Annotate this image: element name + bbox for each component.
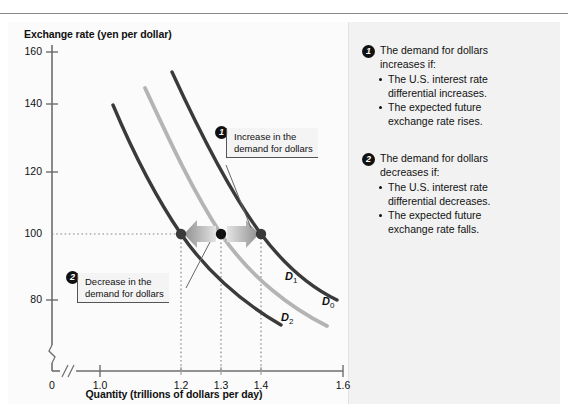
y-axis-title: Exchange rate (yen per dollar) [24,28,172,40]
legend-2-badge: 2 [362,153,375,166]
callout-2-box: Decrease in the demand for dollars [77,273,169,303]
curve-label-d1-text: D [285,270,293,282]
legend-1-heading-line1: The demand for dollars [380,44,547,58]
legend-2-heading: 2 The demand for dollars decreases if: [362,152,547,179]
legend-1-bullet-1-line2: differential increases. [388,87,547,101]
bullet-dot-icon [379,106,382,109]
legend-1-bullet-2-line1: The expected future [388,101,547,115]
y-axis [46,45,58,371]
x-origin-label: 0 [39,379,65,391]
callout-2-line1: Decrease in the [85,276,164,288]
curve-label-d2-text: D [281,311,289,323]
legend-1-bullet-1: The U.S. interest rate differential incr… [388,73,547,100]
legend-2-bullet-2-line1: The expected future [388,209,547,223]
figure-root: Exchange rate (yen per dollar) Quantity … [0,0,568,411]
callout-1-leader [226,165,251,228]
legend-1-badge: 1 [362,45,375,58]
x-tick-1-0: 1.0 [87,379,113,391]
demand-curve-d1 [172,72,337,300]
legend-block-1: 1 The demand for dollars increases if: T… [362,44,547,129]
curve-label-d0-text: D [322,295,330,307]
d0-equilibrium-dot [216,229,226,239]
d2-equilibrium-dot [176,229,186,239]
y-tick-120: 120 [16,165,42,177]
callout-2-line2: demand for dollars [85,288,164,300]
legend-2-bullet-2: The expected future exchange rate falls. [388,209,547,236]
curve-label-d2: D2 [281,311,293,326]
curve-label-d0-sub: 0 [330,301,334,310]
callout-1-line1: Increase in the [234,131,313,143]
legend-1-bullet-2-line2: exchange rate rises. [388,115,547,129]
legend-1-bullet-2: The expected future exchange rate rises. [388,101,547,128]
x-marker-1-3: 1.3 [208,379,234,391]
bullet-dot-icon [379,186,382,189]
legend-2-heading-line2: decreases if: [380,166,547,180]
d1-equilibrium-dot [256,229,266,239]
legend-2-bullets: The U.S. interest rate differential decr… [362,181,547,236]
legend-2-bullet-2-line2: exchange rate falls. [388,223,547,237]
legend-1-heading: 1 The demand for dollars increases if: [362,44,547,71]
y-tick-140: 140 [16,97,42,109]
x-tick-1-6: 1.6 [330,379,356,391]
callout-1-line2: demand for dollars [234,143,313,155]
curve-label-d1: D1 [285,270,297,285]
legend-2-heading-line1: The demand for dollars [380,152,547,166]
x-marker-1-4: 1.4 [248,379,274,391]
legend-2-bullet-1-line1: The U.S. interest rate [388,181,547,195]
legend-1-bullets: The U.S. interest rate differential incr… [362,73,547,128]
demand-curve-d0 [145,88,327,326]
bullet-dot-icon [379,214,382,217]
legend-2-bullet-1-line2: differential decreases. [388,195,547,209]
legend-2-bullet-1: The U.S. interest rate differential decr… [388,181,547,208]
x-axis [52,365,343,377]
callout-1-box: Increase in the demand for dollars [226,128,318,158]
y-tick-100: 100 [16,227,42,239]
legend-1-heading-line2: increases if: [380,58,547,72]
legend-1-bullet-1-line1: The U.S. interest rate [388,73,547,87]
curve-label-d1-sub: 1 [293,276,297,285]
y-tick-160: 160 [16,45,42,57]
curve-label-d2-sub: 2 [289,317,293,326]
curve-label-d0: D0 [322,295,334,310]
x-marker-1-2: 1.2 [168,379,194,391]
bullet-dot-icon [379,78,382,81]
legend-block-2: 2 The demand for dollars decreases if: T… [362,152,547,237]
y-tick-80: 80 [16,293,42,305]
